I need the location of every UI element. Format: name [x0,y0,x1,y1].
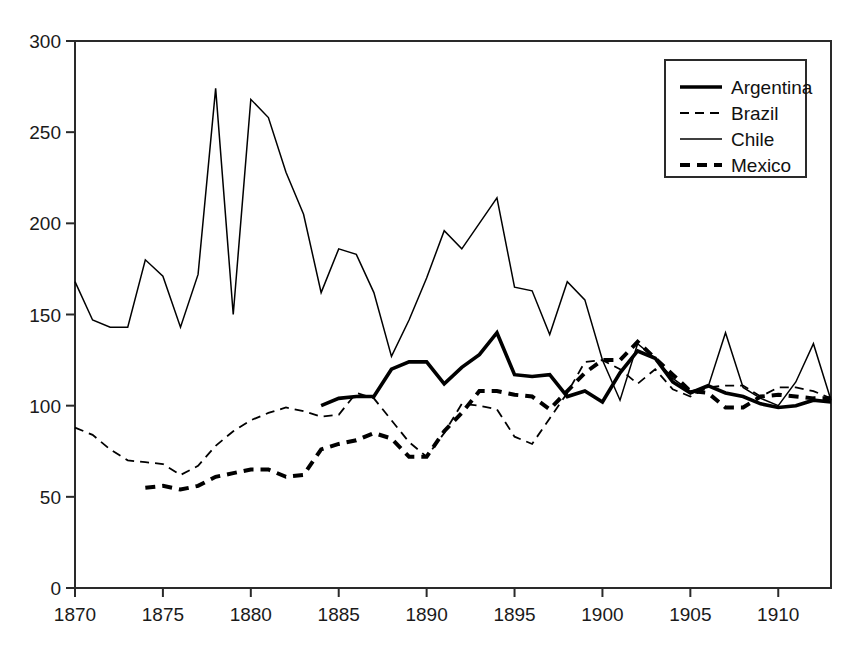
x-tick-label: 1890 [405,604,447,625]
y-tick-label: 300 [29,31,61,52]
y-tick-label: 0 [50,578,61,599]
legend-label-argentina[interactable]: Argentina [731,77,813,98]
chart-legend: ArgentinaBrazilChileMexico [665,60,813,177]
x-tick-label: 1905 [669,604,711,625]
x-tick-label: 1880 [230,604,272,625]
legend-label-chile[interactable]: Chile [731,129,774,150]
x-tick-label: 1900 [581,604,623,625]
x-axis-tick-labels: 187018751880188518901895190019051910 [54,604,800,625]
legend-label-mexico[interactable]: Mexico [731,155,791,176]
y-tick-label: 200 [29,213,61,234]
y-tick-label: 50 [40,487,61,508]
x-tick-label: 1885 [318,604,360,625]
x-tick-label: 1910 [757,604,799,625]
legend-label-brazil[interactable]: Brazil [731,103,779,124]
y-tick-label: 100 [29,396,61,417]
x-tick-label: 1875 [142,604,184,625]
line-chart: 050100150200250300 187018751880188518901… [0,0,866,646]
x-tick-label: 1870 [54,604,96,625]
y-tick-label: 250 [29,122,61,143]
chart-figure: 050100150200250300 187018751880188518901… [0,0,866,646]
x-tick-label: 1895 [493,604,535,625]
y-tick-label: 150 [29,305,61,326]
